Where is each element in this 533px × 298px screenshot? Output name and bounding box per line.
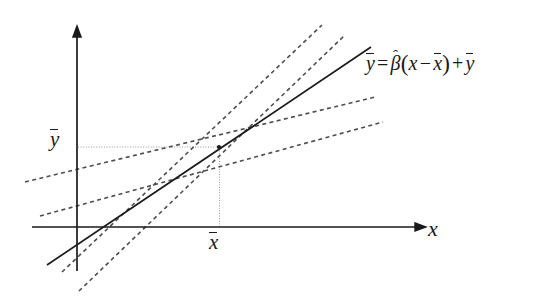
y-mean-label: y <box>50 128 59 150</box>
x-mean-glyph: x <box>209 231 218 253</box>
beta-hat: ˆβ <box>391 53 401 73</box>
equation-minus: − <box>418 52 433 74</box>
mean-point-marker <box>217 145 221 149</box>
equation-x-mean: x <box>433 52 442 73</box>
equation-close-paren: ) <box>442 51 450 76</box>
x-mean-label: x <box>209 231 218 253</box>
equation-x: x <box>409 52 418 74</box>
equation-equals: = <box>375 52 390 74</box>
y-mean-glyph: y <box>50 128 59 150</box>
equation-plus: + <box>450 52 465 74</box>
candidate-lines <box>25 25 383 291</box>
regression-equation: y=ˆβ(x−x)+y <box>366 51 475 74</box>
plot-canvas <box>0 0 533 298</box>
candidate-line-steep-1 <box>62 25 322 272</box>
x-axis-label: x <box>428 218 438 240</box>
equation-y-mean: y <box>466 52 475 73</box>
regression-figure: y x x y=ˆβ(x−x)+y <box>0 0 533 298</box>
equation-lhs: y <box>366 52 375 73</box>
hat-accent: ˆ <box>393 47 398 63</box>
guide-lines <box>78 147 220 227</box>
equation-open-paren: ( <box>401 51 409 76</box>
candidate-line-shallow-2 <box>40 122 383 216</box>
